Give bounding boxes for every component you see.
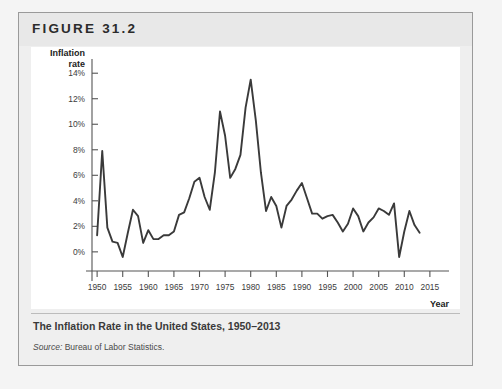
figure-source-line: Source: Bureau of Labor Statistics. xyxy=(33,342,164,352)
x-axis-title: Year xyxy=(430,299,450,309)
inflation-line-chart: Inflationrate 0%2%4%6%8%10%12%14% 195019… xyxy=(31,47,460,309)
x-tick-label: 2015 xyxy=(421,282,440,292)
page-background: FIGURE 31.2 Inflationrate 0%2%4%6%8%10%1… xyxy=(0,0,502,389)
source-label: Source: xyxy=(33,342,62,352)
x-tick-label: 1985 xyxy=(267,282,286,292)
x-tick-label: 2000 xyxy=(344,282,363,292)
x-tick-label: 1995 xyxy=(318,282,337,292)
x-axis-ticks: 1950195519601965197019751980198519901995… xyxy=(88,271,440,292)
x-tick-label: 1955 xyxy=(113,282,132,292)
y-tick-label: 4% xyxy=(73,196,86,206)
figure-box: FIGURE 31.2 Inflationrate 0%2%4%6%8%10%1… xyxy=(18,12,473,366)
y-axis-ticks: 0%2%4%6%8%10%12%14% xyxy=(68,68,98,257)
x-tick-label: 1980 xyxy=(241,282,260,292)
y-tick-label: 14% xyxy=(68,68,85,78)
x-tick-label: 1965 xyxy=(165,282,184,292)
x-tick-label: 2005 xyxy=(369,282,388,292)
y-tick-label: 8% xyxy=(73,145,86,155)
figure-caption-title: The Inflation Rate in the United States,… xyxy=(33,320,280,332)
x-tick-label: 2010 xyxy=(395,282,414,292)
figure-header-band: FIGURE 31.2 xyxy=(19,13,472,46)
x-tick-label: 1970 xyxy=(190,282,209,292)
chart-plot-panel: Inflationrate 0%2%4%6%8%10%12%14% 195019… xyxy=(31,47,460,309)
data-line-series xyxy=(97,80,420,257)
inflation-rate-line xyxy=(97,80,420,257)
y-axis-title-line: Inflation xyxy=(50,48,85,58)
axis-lines xyxy=(86,59,449,281)
x-tick-label: 1950 xyxy=(88,282,107,292)
x-tick-label: 1960 xyxy=(139,282,158,292)
y-axis-title: Inflationrate xyxy=(50,48,85,69)
x-tick-label: 1975 xyxy=(216,282,235,292)
caption-divider xyxy=(31,313,460,314)
source-text: Bureau of Labor Statistics. xyxy=(62,342,164,352)
y-tick-label: 12% xyxy=(68,94,85,104)
y-tick-label: 10% xyxy=(68,119,85,129)
x-tick-label: 1990 xyxy=(293,282,312,292)
y-tick-label: 6% xyxy=(73,170,86,180)
x-axis-title: Year xyxy=(430,299,450,309)
y-tick-label: 2% xyxy=(73,221,86,231)
figure-caption-band: The Inflation Rate in the United States,… xyxy=(31,313,460,361)
y-tick-label: 0% xyxy=(73,247,86,257)
figure-number-label: FIGURE 31.2 xyxy=(32,21,137,36)
